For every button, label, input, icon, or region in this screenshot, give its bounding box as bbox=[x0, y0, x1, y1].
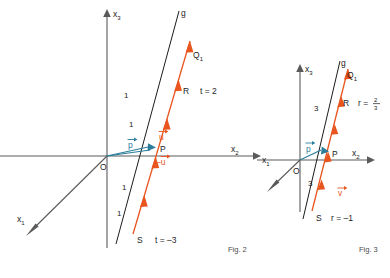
fig3-label-g: g bbox=[341, 58, 346, 68]
fig3-param-R: r = 2 3 bbox=[358, 97, 380, 111]
fig3-point-P: P bbox=[332, 149, 338, 159]
fig3-point-R: R bbox=[343, 98, 349, 108]
fig2-tick-1: 1 bbox=[124, 91, 129, 100]
svg-text:u: u bbox=[159, 132, 164, 142]
fig3-vector-p bbox=[300, 147, 329, 160]
fig2-label-vector-neg-u: –u bbox=[156, 155, 170, 167]
fig2-tick-2: 1 bbox=[129, 120, 134, 129]
svg-text:–u: –u bbox=[156, 157, 166, 167]
fig3-axis-x1 bbox=[267, 160, 300, 192]
fig2-point-S: S bbox=[137, 235, 143, 245]
fig3-label-x3: x3 bbox=[305, 64, 313, 76]
fig3-caption: Fig. 3 bbox=[359, 245, 378, 254]
fig3-label-x2: x2 bbox=[352, 148, 360, 160]
fig3-label-vector-p: p bbox=[306, 141, 316, 154]
fig2-param-R: t = 2 bbox=[200, 86, 217, 96]
fig2-point-R: R bbox=[183, 86, 189, 96]
fig3-vector-chain bbox=[312, 69, 352, 211]
fig3-point-S: S bbox=[316, 213, 322, 223]
svg-text:v: v bbox=[338, 188, 343, 198]
fig3-label-x1: x1 bbox=[262, 155, 270, 167]
fig2-axis-x3 bbox=[103, 9, 111, 248]
fig2-label-x1: x1 bbox=[17, 214, 25, 226]
fig2-point-P: P bbox=[160, 144, 166, 154]
figure-fig2: x2 x3 x1 O g 1 1 1 1 Q1 bbox=[0, 8, 261, 254]
svg-text:p: p bbox=[128, 140, 133, 150]
fig3-tick-1: 3 bbox=[314, 104, 319, 113]
fig3-param-R-numerator: 2 bbox=[374, 97, 378, 103]
fig2-tick-3: 1 bbox=[122, 183, 127, 192]
fig2-param-S: t = –3 bbox=[155, 235, 177, 245]
fig2-caption: Fig. 2 bbox=[228, 245, 247, 254]
fig3-param-R-denominator: 3 bbox=[374, 105, 378, 111]
fig2-label-x3: x3 bbox=[113, 9, 121, 21]
fig3-label-vector-v: v bbox=[338, 186, 348, 198]
fig3-tick-2: 3 bbox=[308, 179, 313, 188]
fig2-label-g: g bbox=[181, 8, 186, 18]
fig3-param-S: r = –1 bbox=[331, 213, 353, 223]
fig3-param-R-lead: r = bbox=[358, 98, 368, 108]
fig2-tick-4: 1 bbox=[117, 209, 122, 218]
figure-canvas: x2 x3 x1 O g 1 1 1 1 Q1 bbox=[0, 0, 390, 278]
svg-text:p: p bbox=[306, 144, 311, 154]
fig3-point-Q1: Q1 bbox=[347, 70, 358, 82]
fig2-label-vector-p: p bbox=[128, 138, 138, 150]
fig2-axis-x1 bbox=[26, 156, 107, 236]
fig3-axis-x3 bbox=[296, 64, 304, 212]
fig2-axis-x2 bbox=[0, 152, 261, 160]
figure-fig3: x2 x3 x1 O g 3 3 Q1 R bbox=[257, 58, 380, 254]
fig2-point-Q1: Q1 bbox=[193, 50, 204, 62]
fig2-label-origin: O bbox=[100, 162, 107, 172]
fig2-label-vector-u: u bbox=[159, 130, 169, 142]
fig3-label-origin: O bbox=[293, 166, 300, 176]
fig3-line-g bbox=[303, 61, 340, 219]
fig2-label-x2: x2 bbox=[231, 144, 239, 156]
